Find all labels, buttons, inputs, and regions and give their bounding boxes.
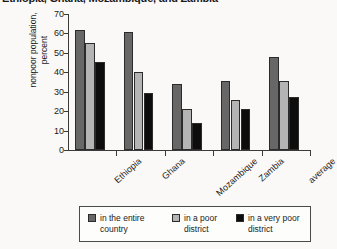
bar: [231, 100, 241, 150]
y-tick-mark: [64, 33, 69, 34]
legend-color-swatch: [236, 214, 244, 222]
y-tick-mark: [64, 92, 69, 93]
bar: [172, 84, 182, 150]
bar: [182, 109, 192, 150]
x-tick-mark: [116, 151, 117, 156]
y-tick-label: 50: [54, 48, 64, 58]
chart-plot-area: nonpoor population, percent 010203040506…: [0, 8, 322, 198]
y-tick-label: 10: [54, 126, 64, 136]
x-category-label: average: [306, 156, 337, 185]
bar: [192, 123, 202, 150]
legend-color-swatch: [172, 214, 180, 222]
bar: [95, 62, 105, 150]
y-tick-label: 30: [54, 87, 64, 97]
y-axis-tick-labels: 010203040506070: [44, 14, 64, 150]
y-tick-mark: [64, 14, 69, 15]
bar: [85, 43, 95, 150]
x-category-label: Mozambique: [214, 156, 259, 198]
legend-label: in a poor district: [184, 213, 217, 235]
y-tick-mark: [64, 111, 69, 112]
bar: [75, 30, 85, 150]
legend-label: in the entire country: [100, 213, 144, 235]
x-tick-mark: [310, 151, 311, 156]
y-tick-mark: [64, 72, 69, 73]
legend-entry: in a poor district: [172, 213, 217, 235]
bar: [134, 72, 144, 150]
bar: [289, 97, 299, 150]
bars-container: [69, 14, 311, 150]
bar: [269, 57, 279, 150]
legend-color-swatch: [88, 214, 96, 222]
x-category-label: Ethiopia: [113, 156, 144, 185]
x-tick-mark: [165, 151, 166, 156]
x-tick-mark: [262, 151, 263, 156]
legend-entry: in the entire country: [88, 213, 144, 235]
x-axis-category-labels: EthiopiaGhanaMozambiqueZambiaaverage: [68, 154, 318, 198]
x-category-label: Zambia: [257, 156, 286, 184]
x-tick-mark: [213, 151, 214, 156]
y-tick-mark: [64, 53, 69, 54]
bar: [241, 109, 251, 150]
y-tick-label: 70: [54, 9, 64, 19]
bar: [124, 32, 134, 150]
x-category-label: Ghana: [160, 156, 187, 182]
bar: [279, 81, 289, 150]
y-tick-label: 40: [54, 67, 64, 77]
bar: [221, 81, 231, 150]
y-tick-mark: [64, 131, 69, 132]
y-tick-label: 60: [54, 28, 64, 38]
y-tick-label: 20: [54, 106, 64, 116]
legend-label: in a very poor district: [248, 213, 300, 235]
y-tick-mark: [64, 150, 69, 151]
bar: [144, 93, 154, 150]
chart-legend: in the entire countryin a poor districti…: [79, 206, 311, 242]
x-axis-line: [68, 150, 311, 151]
legend-entry: in a very poor district: [236, 213, 300, 235]
